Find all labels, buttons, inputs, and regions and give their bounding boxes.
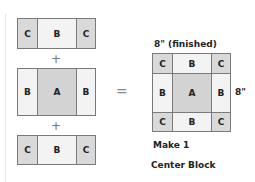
patch-b: B — [77, 69, 95, 115]
quantity-label: Make 1 — [153, 140, 189, 150]
patch-c: C — [18, 19, 38, 48]
height-label: 8" — [235, 87, 246, 97]
patch-c: C — [77, 136, 95, 164]
patch-b: B — [153, 74, 173, 113]
finished-block: C B C B A B C B C — [152, 53, 231, 132]
patch-a: A — [38, 69, 77, 115]
plus-sign: + — [46, 120, 66, 132]
strip-bottom: C B C — [17, 135, 96, 165]
patch-b: B — [38, 136, 77, 164]
block-name: Center Block — [151, 160, 216, 170]
patch-b: B — [173, 113, 212, 131]
strip-top: C B C — [17, 18, 96, 49]
patch-b: B — [212, 74, 230, 113]
margin-rule — [5, 14, 6, 182]
patch-b: B — [38, 19, 77, 48]
width-label: 8" (finished) — [154, 39, 217, 49]
patch-c: C — [18, 136, 38, 164]
patch-c: C — [212, 54, 230, 74]
patch-b: B — [173, 54, 212, 74]
plus-sign: + — [46, 53, 66, 65]
patch-c: C — [212, 113, 230, 131]
patch-c: C — [153, 54, 173, 74]
patch-c: C — [77, 19, 95, 48]
patch-c: C — [153, 113, 173, 131]
patch-a: A — [173, 74, 212, 113]
patch-b: B — [18, 69, 38, 115]
strip-middle: B A B — [17, 68, 96, 116]
equals-sign: = — [116, 84, 128, 98]
